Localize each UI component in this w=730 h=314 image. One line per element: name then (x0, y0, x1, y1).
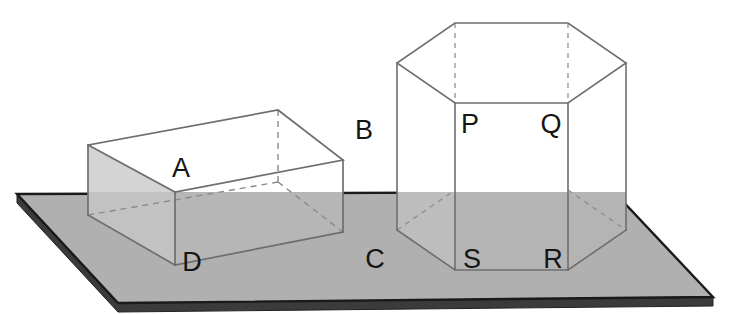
vertex-label-Q: Q (540, 109, 561, 139)
figure-stage: A B C D P Q R S (0, 0, 730, 314)
vertex-label-C: C (365, 244, 385, 274)
vertex-label-A: A (172, 153, 190, 183)
solids-diagram: A B C D P Q R S (0, 0, 730, 314)
vertex-label-B: B (355, 115, 373, 145)
hexagonal-prism (397, 23, 626, 270)
vertex-label-R: R (543, 244, 563, 274)
vertex-label-P: P (461, 109, 479, 139)
vertex-label-D: D (182, 247, 202, 277)
vertex-label-S: S (463, 244, 481, 274)
